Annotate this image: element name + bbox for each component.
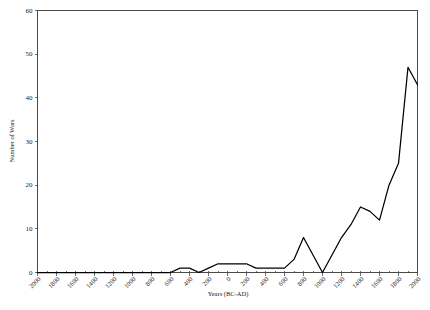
x-tick-label: 1200 bbox=[332, 275, 346, 289]
x-tick-label: 800 bbox=[296, 275, 308, 287]
y-tick-label: 30 bbox=[26, 138, 34, 146]
x-tick-label: 1400 bbox=[85, 275, 99, 289]
chart-container: 0102030405060 20001800160014001200100080… bbox=[0, 0, 430, 310]
x-tick-label: 1600 bbox=[66, 275, 80, 289]
y-tick-label: 50 bbox=[26, 50, 34, 58]
y-axis-tick-labels: 0102030405060 bbox=[26, 7, 34, 277]
x-tick-label: 600 bbox=[277, 275, 289, 287]
x-tick-label: 1600 bbox=[370, 275, 384, 289]
wars-over-time-line-chart: 0102030405060 20001800160014001200100080… bbox=[0, 0, 430, 310]
x-tick-label: 1200 bbox=[104, 275, 118, 289]
x-tick-label: 1000 bbox=[123, 275, 137, 289]
x-tick-label: 1800 bbox=[47, 275, 61, 289]
x-tick-label: 1400 bbox=[351, 275, 365, 289]
series-line-number-of-wars bbox=[38, 67, 418, 272]
y-tick-label: 20 bbox=[26, 181, 34, 189]
x-tick-label: 2000 bbox=[28, 275, 42, 289]
x-tick-label: 0 bbox=[224, 275, 231, 282]
x-tick-label: 1000 bbox=[313, 275, 327, 289]
x-tick-label: 800 bbox=[144, 275, 156, 287]
x-axis-tick-labels: 2000180016001400120010008006004002000200… bbox=[28, 275, 422, 289]
x-axis-title: Years (BC-AD) bbox=[208, 290, 249, 298]
plot-frame bbox=[38, 11, 418, 273]
x-tick-label: 400 bbox=[258, 275, 270, 287]
x-tick-label: 200 bbox=[201, 275, 213, 287]
x-tick-label: 400 bbox=[182, 275, 194, 287]
y-tick-label: 10 bbox=[26, 225, 34, 233]
y-tick-label: 40 bbox=[26, 94, 34, 102]
x-tick-label: 600 bbox=[163, 275, 175, 287]
y-tick-label: 0 bbox=[29, 269, 33, 277]
x-tick-label: 2000 bbox=[408, 275, 422, 289]
y-tick-label: 60 bbox=[26, 7, 34, 15]
x-tick-label: 1800 bbox=[389, 275, 403, 289]
y-axis-title: Number of Wars bbox=[8, 119, 15, 163]
x-tick-label: 200 bbox=[239, 275, 251, 287]
data-series-group bbox=[38, 67, 418, 272]
